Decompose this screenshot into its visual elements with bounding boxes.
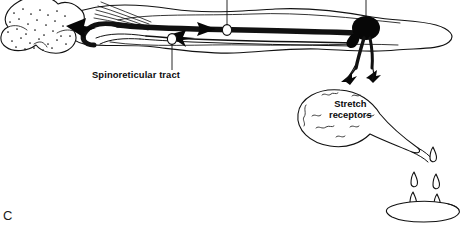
anatomy-illustration [0,0,461,239]
spinoreticular-tract-label: Spinoreticular tract [92,70,180,81]
urine-droplets [410,147,441,209]
figure-panel-c: Spinoreticular tract Stretch receptors C [0,0,461,239]
urine-puddle [386,201,459,222]
upper-cell-body [222,25,231,36]
lower-cell-body [167,34,176,45]
stretch-receptors-label: Stretch receptors [329,98,372,121]
arrowhead-terminal-left [341,73,357,85]
panel-letter-label: C [3,209,12,224]
droplet-3 [433,174,440,189]
stretch-receptors-label-line2: receptors [329,109,372,120]
droplet-2 [411,172,418,187]
stretch-receptors-label-line1: Stretch [329,98,372,109]
droplet-1 [430,147,437,162]
